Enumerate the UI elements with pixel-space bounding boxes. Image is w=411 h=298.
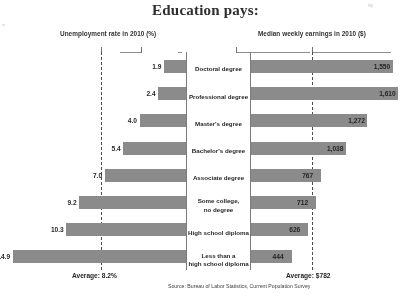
unemployment-bar (123, 142, 186, 155)
unemployment-bar (158, 87, 186, 100)
category-label: Bachelor's degree (187, 138, 250, 165)
source-note: Source: Bureau of Labor Statistics, Curr… (168, 283, 310, 289)
unemployment-pane: 7.0 (0, 165, 186, 192)
unemployment-pane: 4.0 (0, 110, 186, 137)
unemployment-value-label: 1.9 (152, 60, 161, 73)
chart-row: 9.2Some college,no degree712 (0, 192, 411, 219)
earnings-pane: 767 (251, 165, 411, 192)
unemployment-pane: 1.9 (0, 56, 186, 83)
earnings-pane: 1,550 (251, 56, 411, 83)
chart-row: 4.0Master's degree1,272 (0, 110, 411, 137)
unemployment-value-label: 9.2 (67, 196, 76, 209)
earnings-value-label: 1,550 (374, 60, 391, 73)
chart-row: 1.9Doctoral degree1,550 (0, 56, 411, 83)
earnings-bar (251, 87, 398, 100)
earnings-pane: 1,272 (251, 110, 411, 137)
earnings-pane: 1,610 (251, 83, 411, 110)
axis-rule-segment (236, 52, 310, 53)
earnings-pane: 444 (251, 246, 411, 273)
earnings-value-label: 1,272 (348, 114, 365, 127)
unemployment-pane: 2.4 (0, 83, 186, 110)
unemployment-bar (79, 196, 186, 209)
chart-rows: 1.9Doctoral degree1,5502.4Professional d… (0, 56, 411, 274)
earnings-value-label: 444 (273, 250, 284, 263)
category-label: Master's degree (187, 110, 250, 137)
unemployment-value-label: 4.0 (128, 114, 137, 127)
earnings-bar (251, 250, 292, 263)
unemployment-bar (164, 60, 186, 73)
unemployment-pane: 5.4 (0, 138, 186, 165)
unemployment-value-label: 14.9 (0, 250, 10, 263)
category-label: Doctoral degree (187, 56, 250, 83)
earnings-value-label: 767 (302, 169, 313, 182)
unemployment-bar (13, 250, 186, 263)
chart-row: 5.4Bachelor's degree1,038 (0, 138, 411, 165)
earnings-value-label: 626 (289, 223, 300, 236)
category-label: Less than ahigh school diploma (187, 246, 250, 273)
earnings-value-label: 1,610 (379, 87, 396, 100)
unemployment-pane: 14.9 (0, 246, 186, 273)
unemployment-pane: 9.2 (0, 192, 186, 219)
unemployment-value-label: 5.4 (112, 142, 121, 155)
axis-tick (141, 47, 142, 53)
scan-artifact (2, 24, 5, 26)
unemployment-value-label: 10.3 (51, 223, 64, 236)
chart-row: 2.4Professional degree1,610 (0, 83, 411, 110)
page-title: Education pays: (0, 2, 411, 19)
axis-rule-segment (120, 52, 142, 53)
right-axis-header: Median weekly earnings in 2010 ($) (258, 30, 366, 37)
axis-tick (236, 47, 237, 53)
axis-rule-segment (313, 52, 391, 53)
earnings-pane: 1,038 (251, 138, 411, 165)
education-pays-chart: Education pays: Unemployment rate in 201… (0, 0, 411, 298)
category-label: Some college,no degree (187, 192, 250, 219)
unemployment-bar (66, 223, 186, 236)
left-axis-header: Unemployment rate in 2010 (%) (60, 30, 156, 37)
unemployment-bar (105, 169, 186, 182)
earnings-value-label: 1,038 (327, 142, 344, 155)
axis-rule-segment (178, 52, 182, 53)
unemployment-value-label: 2.4 (146, 87, 155, 100)
earnings-bar (251, 60, 393, 73)
earnings-pane: 712 (251, 192, 411, 219)
unemployment-pane: 10.3 (0, 219, 186, 246)
chart-row: 14.9Less than ahigh school diploma444 (0, 246, 411, 273)
chart-row: 10.3High school diploma626 (0, 219, 411, 246)
unemployment-bar (140, 114, 187, 127)
category-label: Associate degree (187, 165, 250, 192)
chart-row: 7.0Associate degree767 (0, 165, 411, 192)
unemployment-value-label: 7.0 (93, 169, 102, 182)
category-label: High school diploma (187, 219, 250, 246)
category-label: Professional degree (187, 83, 250, 110)
earnings-value-label: 712 (297, 196, 308, 209)
earnings-pane: 626 (251, 219, 411, 246)
